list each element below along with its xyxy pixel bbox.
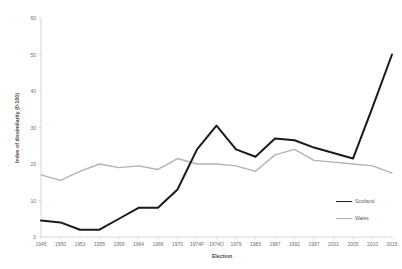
x-tick-label-1983: 1983 bbox=[250, 241, 261, 247]
y-tick-label-40: 40 bbox=[22, 88, 36, 94]
x-tick-label-1950: 1950 bbox=[55, 241, 66, 247]
legend-swatch-scotland bbox=[336, 201, 352, 202]
legend-item-wales: Wales bbox=[336, 215, 369, 221]
legend-label-wales: Wales bbox=[355, 215, 369, 221]
legend-label-scotland: Scotland bbox=[355, 198, 374, 204]
x-tick-label-1974F: 1974F bbox=[190, 241, 204, 247]
x-tick-label-2001: 2001 bbox=[328, 241, 339, 247]
axis-lines bbox=[41, 18, 392, 237]
y-tick-label-50: 50 bbox=[22, 52, 36, 58]
x-tick-label-1987: 1987 bbox=[269, 241, 280, 247]
x-tick-label-2010: 2010 bbox=[367, 241, 378, 247]
x-axis-title: Election bbox=[212, 253, 232, 259]
legend-swatch-wales bbox=[336, 218, 352, 219]
y-axis-title: Index of dissimilarity (0-100) bbox=[14, 93, 20, 163]
x-tick-label-1964: 1964 bbox=[133, 241, 144, 247]
x-tick-label-1979: 1979 bbox=[230, 241, 241, 247]
chart-container: 0102030405060 19451950195119551959196419… bbox=[0, 0, 402, 269]
x-tick-label-1997: 1997 bbox=[308, 241, 319, 247]
x-tick-label-1992: 1992 bbox=[289, 241, 300, 247]
y-tick-label-20: 20 bbox=[22, 161, 36, 167]
x-tick-label-1970: 1970 bbox=[172, 241, 183, 247]
x-tick-label-1945: 1945 bbox=[35, 241, 46, 247]
y-tick-label-10: 10 bbox=[22, 198, 36, 204]
x-tick-label-2005: 2005 bbox=[347, 241, 358, 247]
x-tick-label-2015: 2015 bbox=[386, 241, 397, 247]
x-tick-label-1959: 1959 bbox=[113, 241, 124, 247]
y-tick-label-30: 30 bbox=[22, 125, 36, 131]
x-tick-label-1974O: 1974O bbox=[209, 241, 224, 247]
chart-plot-area bbox=[0, 0, 402, 269]
x-tick-label-1966: 1966 bbox=[152, 241, 163, 247]
x-tick-label-1951: 1951 bbox=[74, 241, 85, 247]
y-tick-label-60: 60 bbox=[22, 15, 36, 21]
y-tick-label-0: 0 bbox=[22, 234, 36, 240]
legend-item-scotland: Scotland bbox=[336, 198, 374, 204]
x-tick-label-1955: 1955 bbox=[94, 241, 105, 247]
